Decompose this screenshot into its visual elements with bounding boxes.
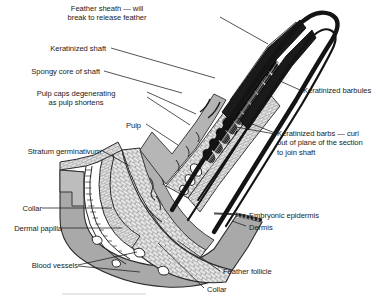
label-collar-upper: Collar (6, 204, 42, 213)
label-dermal-papilla: Dermal papilla (2, 224, 62, 233)
label-collar-lower: Collar (207, 285, 247, 294)
label-keratinized-barbules: Keratinized barbules (303, 86, 384, 95)
label-keratinized-shaft: Keratinized shaft (6, 44, 106, 53)
leader-pulp-caps-a (147, 92, 196, 114)
label-feather-follicle: Feather follicle (223, 267, 303, 276)
figure-canvas: Feather sheath — will break to release f… (0, 0, 384, 299)
leader-keratinized-shaft (111, 48, 215, 78)
label-keratinized-barbs: Keratinized barbs — curl out of plane of… (277, 129, 384, 157)
label-stratum-germinativum: Stratum germinativum (6, 147, 101, 156)
label-feather-sheath: Feather sheath — will break to release f… (27, 4, 187, 23)
leader-feather-sheath (220, 17, 268, 44)
label-spongy-core-of-shaft: Spongy core of shaft (6, 67, 100, 76)
label-dermis: Dermis (249, 223, 309, 232)
label-pulp-caps-degenerating: Pulp caps degenerating as pulp shortens (6, 89, 146, 108)
leader-pulp-caps-b (147, 97, 190, 125)
label-embryonic-epidermis: Embryonic epidermis (249, 211, 359, 220)
label-pulp: Pulp (96, 121, 141, 130)
label-blood-vessels: Blood vessels (6, 261, 78, 270)
